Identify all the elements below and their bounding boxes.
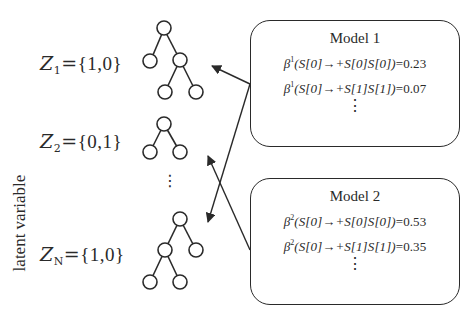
arrow-model1-to-z1 <box>212 66 250 84</box>
tree-z2-icon <box>143 117 187 159</box>
model-1-rule-1: β1(S[0]→+S[0]S[0])=0.23 <box>251 55 459 72</box>
rule-text: (S[0]→+S[1]S[1]) <box>294 239 395 254</box>
rule-text: (S[0]→+S[0]S[0]) <box>294 214 395 229</box>
tree-zn-icon <box>143 212 203 289</box>
model-1-box: Model 1 β1(S[0]→+S[0]S[0])=0.23 β1(S[0]→… <box>250 20 460 147</box>
model-2-title: Model 2 <box>251 188 459 205</box>
model-2-ellipsis: ⋮ <box>251 261 459 267</box>
rule-value: =0.53 <box>396 214 427 229</box>
rule-text: (S[0]→+S[1]S[1]) <box>294 81 395 96</box>
rule-value: =0.07 <box>396 81 427 96</box>
tree-z1-icon <box>143 21 203 99</box>
model-1-title: Model 1 <box>251 30 459 47</box>
model-2-rule-1: β2(S[0]→+S[0]S[0])=0.53 <box>251 213 459 230</box>
model-1-ellipsis: ⋮ <box>251 103 459 109</box>
rule-value: =0.35 <box>396 239 427 254</box>
rule-text: (S[0]→+S[0]S[0]) <box>294 56 395 71</box>
model-1-rule-2: β1(S[0]→+S[1]S[1])=0.07 <box>251 80 459 97</box>
model-2-rule-2: β2(S[0]→+S[1]S[1])=0.35 <box>251 238 459 255</box>
rule-value: =0.23 <box>396 56 427 71</box>
model-2-box: Model 2 β2(S[0]→+S[0]S[0])=0.53 β2(S[0]→… <box>250 178 460 305</box>
